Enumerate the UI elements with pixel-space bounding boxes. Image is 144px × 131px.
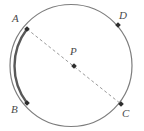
geometry-figure: A D B C P bbox=[0, 0, 144, 131]
point-label-a: A bbox=[12, 13, 19, 24]
point-marker-d bbox=[115, 22, 121, 28]
point-label-c: C bbox=[122, 108, 129, 119]
center-label-p: P bbox=[70, 46, 77, 57]
point-label-b: B bbox=[11, 104, 18, 115]
circle-outline bbox=[10, 5, 132, 127]
point-label-d: D bbox=[119, 10, 127, 21]
